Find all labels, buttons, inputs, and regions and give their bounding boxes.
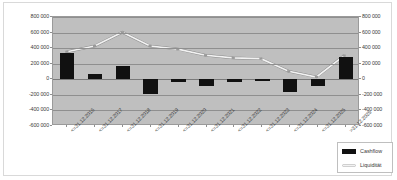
x-tick-mark xyxy=(317,125,318,127)
bar-cashflow xyxy=(283,79,298,92)
x-tick-mark xyxy=(94,125,95,127)
legend-label-cashflow: Cashflow xyxy=(360,148,382,154)
y-tick-label: -200 000 xyxy=(359,91,382,97)
bar-cashflow xyxy=(255,79,270,81)
x-tick-mark xyxy=(122,125,123,127)
y-tick-label: -200 000 xyxy=(29,91,52,97)
line-marker xyxy=(93,45,96,47)
bar-cashflow xyxy=(339,57,354,79)
chart-legend: Cashflow Liquidität xyxy=(337,142,393,173)
gridline xyxy=(53,95,358,96)
line-marker xyxy=(315,76,318,78)
y-tick-label: 800 000 xyxy=(359,13,380,19)
y-tick-label: -400 000 xyxy=(29,106,52,112)
bar-cashflow xyxy=(116,66,131,80)
x-tick-label: <=31.12.2021 xyxy=(209,129,213,133)
legend-item-liquiditaet: Liquidität xyxy=(338,158,392,172)
bar-cashflow xyxy=(311,79,326,85)
x-tick-label: <=31.12.2020 xyxy=(181,129,185,133)
bar-cashflow xyxy=(60,53,75,79)
x-tick-label: <=31.12.2025 xyxy=(320,129,324,133)
line-marker xyxy=(204,54,207,56)
x-tick-mark xyxy=(233,125,234,127)
x-tick-label: <=31.12.2018 xyxy=(125,129,129,133)
y-tick-label: 800 000 xyxy=(31,13,52,19)
bar-cashflow xyxy=(227,79,242,82)
y-tick-label: 400 000 xyxy=(359,44,380,50)
bar-cashflow xyxy=(143,79,158,94)
legend-label-liquiditaet: Liquidität xyxy=(360,162,382,168)
x-tick-mark xyxy=(150,125,151,127)
y-tick-label: 600 000 xyxy=(359,29,380,35)
legend-item-cashflow: Cashflow xyxy=(338,144,392,158)
y-tick-label: 600 000 xyxy=(31,29,52,35)
x-tick-label: <=31.12.2024 xyxy=(292,129,296,133)
y-tick-label: 200 000 xyxy=(31,60,52,66)
gridline xyxy=(53,64,358,65)
line-marker xyxy=(287,70,290,72)
chart-frame: 800 000600 000400 000200 0000-200 000-40… xyxy=(3,2,392,176)
x-tick-label: <=31.12.2016 xyxy=(69,129,73,133)
line-marker xyxy=(148,45,151,47)
bar-swatch-icon xyxy=(342,149,356,154)
x-tick-label: <=31.12.2017 xyxy=(97,129,101,133)
line-marker xyxy=(232,57,235,59)
y-tick-label: 0 xyxy=(46,75,52,81)
x-tick-mark xyxy=(261,125,262,127)
x-tick-label: >31.12.2025 xyxy=(348,129,352,133)
bar-cashflow xyxy=(171,79,186,82)
x-tick-mark xyxy=(178,125,179,127)
y-tick-label: 200 000 xyxy=(359,60,380,66)
x-tick-mark xyxy=(289,125,290,127)
line-marker xyxy=(259,58,262,60)
x-tick-mark xyxy=(66,125,67,127)
x-tick-mark xyxy=(345,125,346,127)
x-tick-label: <=31.12.2023 xyxy=(264,129,268,133)
y-tick-label: -600 000 xyxy=(29,122,52,128)
line-swatch-icon xyxy=(342,163,356,168)
x-tick-label: <=31.12.2019 xyxy=(153,129,157,133)
gridline xyxy=(53,17,358,18)
gridline xyxy=(53,33,358,34)
x-tick-label: <=31.12.2022 xyxy=(236,129,240,133)
bar-cashflow xyxy=(88,74,103,79)
bar-cashflow xyxy=(199,79,214,85)
x-tick-mark xyxy=(206,125,207,127)
y-tick-label: 0 xyxy=(359,75,365,81)
y-tick-label: 400 000 xyxy=(31,44,52,50)
gridline xyxy=(53,48,358,49)
